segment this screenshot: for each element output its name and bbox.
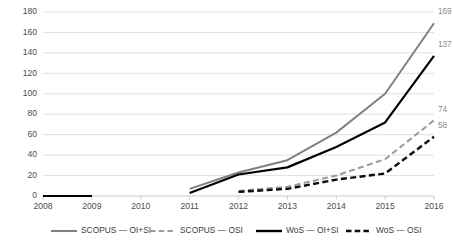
- x-axis-tick-label: 2016: [424, 201, 443, 211]
- y-axis-tick-label: 140: [23, 47, 38, 57]
- y-axis-tick-label: 120: [23, 68, 38, 78]
- legend-label-0[interactable]: SCOPUS — OI+SI: [81, 225, 151, 235]
- legend-label-2[interactable]: WoS — OI+SI: [286, 225, 339, 235]
- data-label-169: 169: [438, 7, 452, 16]
- x-axis-tick-labels: 200820092010201120122013201420152016: [33, 201, 443, 211]
- chart-canvas: 180160140120100806040200 200820092010201…: [0, 0, 453, 245]
- legend-label-3[interactable]: WoS — OSI: [376, 225, 421, 235]
- data-label-137: 137: [438, 40, 452, 49]
- y-axis-tick-label: 60: [27, 129, 37, 139]
- legend-label-1[interactable]: SCOPUS — OSI: [180, 225, 243, 235]
- y-axis-tick-labels: 180160140120100806040200: [23, 6, 38, 200]
- data-label-74: 74: [438, 105, 448, 114]
- x-axis-tick-label: 2015: [376, 201, 395, 211]
- y-axis-tick-label: 180: [23, 6, 38, 16]
- data-series: [43, 23, 434, 196]
- x-axis-tick-label: 2010: [131, 201, 150, 211]
- y-axis-tick-label: 80: [27, 108, 37, 118]
- x-axis-tick-label: 2009: [82, 201, 101, 211]
- y-axis-tick-label: 0: [32, 190, 37, 200]
- x-axis-tick-label: 2014: [327, 201, 346, 211]
- y-axis-tick-label: 160: [23, 27, 38, 37]
- x-axis-tick-label: 2012: [229, 201, 248, 211]
- gridlines: [43, 12, 434, 200]
- line-chart: 180160140120100806040200 200820092010201…: [0, 0, 453, 245]
- x-axis-tick-label: 2013: [278, 201, 297, 211]
- chart-legend: SCOPUS — OI+SISCOPUS — OSIWoS — OI+SIWoS…: [51, 225, 421, 235]
- y-axis-tick-label: 20: [27, 170, 37, 180]
- y-axis-tick-label: 40: [27, 149, 37, 159]
- x-axis-tick-label: 2008: [33, 201, 52, 211]
- data-label-58: 58: [438, 121, 448, 130]
- x-axis-tick-label: 2011: [180, 201, 199, 211]
- data-point-labels: 1691377458: [438, 7, 452, 129]
- y-axis-tick-label: 100: [23, 88, 38, 98]
